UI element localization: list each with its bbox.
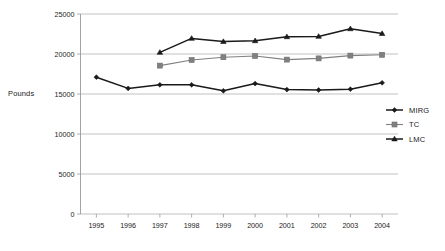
data-point-marker-square bbox=[157, 63, 162, 68]
data-point-marker-square bbox=[380, 52, 385, 57]
data-point-marker-diamond bbox=[284, 87, 289, 92]
data-point-marker-diamond bbox=[316, 88, 321, 93]
x-tick-label: 2004 bbox=[374, 221, 390, 230]
legend-label: MIRG bbox=[409, 106, 429, 115]
y-tick-label: 15000 bbox=[55, 90, 75, 99]
data-point-marker-diamond bbox=[189, 82, 194, 87]
y-axis-ticks-group: 0500010000150002000025000 bbox=[55, 10, 81, 219]
data-point-marker-square bbox=[348, 53, 353, 58]
series-mirg bbox=[94, 75, 385, 93]
data-point-marker-diamond bbox=[157, 82, 162, 87]
data-point-marker-square bbox=[284, 57, 289, 62]
data-point-marker-diamond bbox=[126, 86, 131, 91]
x-tick-label: 1995 bbox=[88, 221, 104, 230]
legend-group: MIRGTCLMC bbox=[386, 106, 429, 144]
data-point-marker-square bbox=[316, 56, 321, 61]
data-point-marker-square bbox=[221, 55, 226, 60]
x-tick-label: 2000 bbox=[247, 221, 263, 230]
legend-label: LMC bbox=[409, 135, 426, 144]
data-point-marker-diamond bbox=[253, 81, 258, 86]
x-tick-label: 2001 bbox=[279, 221, 295, 230]
data-point-marker-square bbox=[189, 58, 194, 63]
x-tick-label: 2002 bbox=[311, 221, 327, 230]
legend-item-tc[interactable]: TC bbox=[386, 120, 420, 129]
data-point-marker-diamond bbox=[221, 88, 226, 93]
data-point-marker-diamond bbox=[94, 75, 99, 80]
series-tc bbox=[157, 52, 384, 68]
gridlines-group bbox=[81, 14, 399, 214]
series-lmc bbox=[157, 26, 385, 54]
data-point-marker-diamond bbox=[380, 80, 385, 85]
data-point-marker-diamond bbox=[392, 108, 397, 113]
y-tick-label: 5000 bbox=[59, 170, 75, 179]
legend-item-mirg[interactable]: MIRG bbox=[386, 106, 429, 115]
series-group bbox=[94, 26, 385, 93]
x-tick-label: 1997 bbox=[152, 221, 168, 230]
y-tick-label: 25000 bbox=[55, 10, 75, 19]
data-point-marker-square bbox=[392, 122, 397, 127]
y-tick-label: 10000 bbox=[55, 130, 75, 139]
x-tick-label: 2003 bbox=[342, 221, 358, 230]
line-chart: Pounds 0500010000150002000025000 1995199… bbox=[0, 0, 445, 251]
data-point-marker-square bbox=[253, 54, 258, 59]
y-tick-label: 20000 bbox=[55, 50, 75, 59]
plot-canvas: 0500010000150002000025000 19951996199719… bbox=[0, 0, 445, 251]
x-tick-label: 1999 bbox=[215, 221, 231, 230]
series-line bbox=[96, 77, 382, 91]
y-tick-label: 0 bbox=[71, 210, 75, 219]
data-point-marker-diamond bbox=[348, 87, 353, 92]
x-tick-label: 1998 bbox=[184, 221, 200, 230]
legend-label: TC bbox=[409, 120, 420, 129]
x-tick-label: 1996 bbox=[120, 221, 136, 230]
legend-item-lmc[interactable]: LMC bbox=[386, 135, 426, 144]
x-axis-ticks-group: 1995199619971998199920002001200220032004 bbox=[88, 214, 390, 230]
